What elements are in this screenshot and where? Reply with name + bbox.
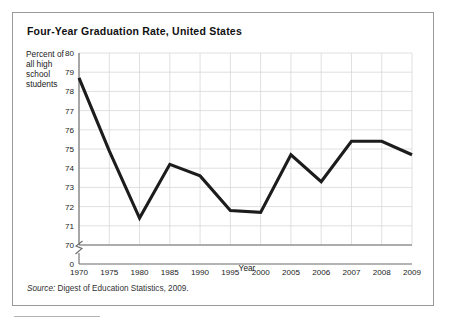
figure-frame: Four-Year Graduation Rate, United States… xyxy=(12,12,434,306)
bottom-divider-rule xyxy=(14,316,100,317)
svg-text:80: 80 xyxy=(65,49,75,58)
svg-text:76: 76 xyxy=(65,126,75,135)
svg-text:75: 75 xyxy=(65,145,75,154)
axis-lines xyxy=(76,53,413,264)
svg-text:72: 72 xyxy=(65,203,75,212)
data-series-line xyxy=(79,78,412,218)
x-axis-title: Year xyxy=(79,263,415,273)
svg-text:70: 70 xyxy=(65,241,75,250)
svg-text:73: 73 xyxy=(65,183,75,192)
svg-text:78: 78 xyxy=(65,87,75,96)
source-text: Digest of Education Statistics, 2009. xyxy=(55,284,188,293)
source-note: Source: Digest of Education Statistics, … xyxy=(27,284,189,293)
svg-text:79: 79 xyxy=(65,68,75,77)
svg-text:77: 77 xyxy=(65,107,75,116)
svg-text:74: 74 xyxy=(65,164,75,173)
source-label: Source: xyxy=(27,284,55,293)
y-tick-labels: 70717273747576777879800 xyxy=(65,49,75,269)
grid-lines xyxy=(79,53,412,245)
svg-text:71: 71 xyxy=(65,222,75,231)
